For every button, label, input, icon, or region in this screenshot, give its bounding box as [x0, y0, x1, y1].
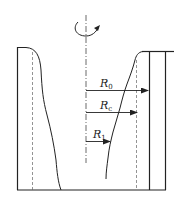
rc-label: Rc — [99, 99, 112, 113]
r0-label: R0 — [99, 77, 113, 91]
left-liquid-profile — [18, 48, 62, 191]
rotation-arrow-icon — [75, 22, 100, 36]
right-liquid-profile — [106, 52, 143, 180]
r1-label: R1 — [92, 128, 106, 142]
rotating-vessel-diagram: R0 Rc R1 — [0, 0, 187, 205]
